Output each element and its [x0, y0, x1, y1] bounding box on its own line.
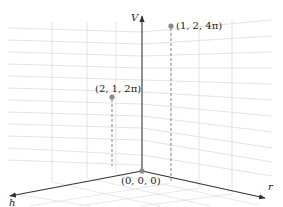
v-axis-label: V	[131, 13, 138, 23]
right-wall-grid	[142, 20, 272, 194]
axes	[10, 16, 265, 198]
point-label-1-2-4pi: (1, 2, 4π)	[176, 21, 222, 31]
h-axis-label: h	[9, 198, 15, 207]
point-2-1-2pi	[109, 94, 114, 99]
r-axis-label: r	[268, 182, 273, 192]
origin-label: (0, 0, 0)	[121, 176, 161, 186]
left-wall-grid	[8, 22, 142, 182]
point-label-2-1-2pi: (2, 1, 2π)	[95, 84, 141, 94]
point-1-2-4pi	[168, 23, 173, 28]
origin-point	[139, 168, 144, 173]
